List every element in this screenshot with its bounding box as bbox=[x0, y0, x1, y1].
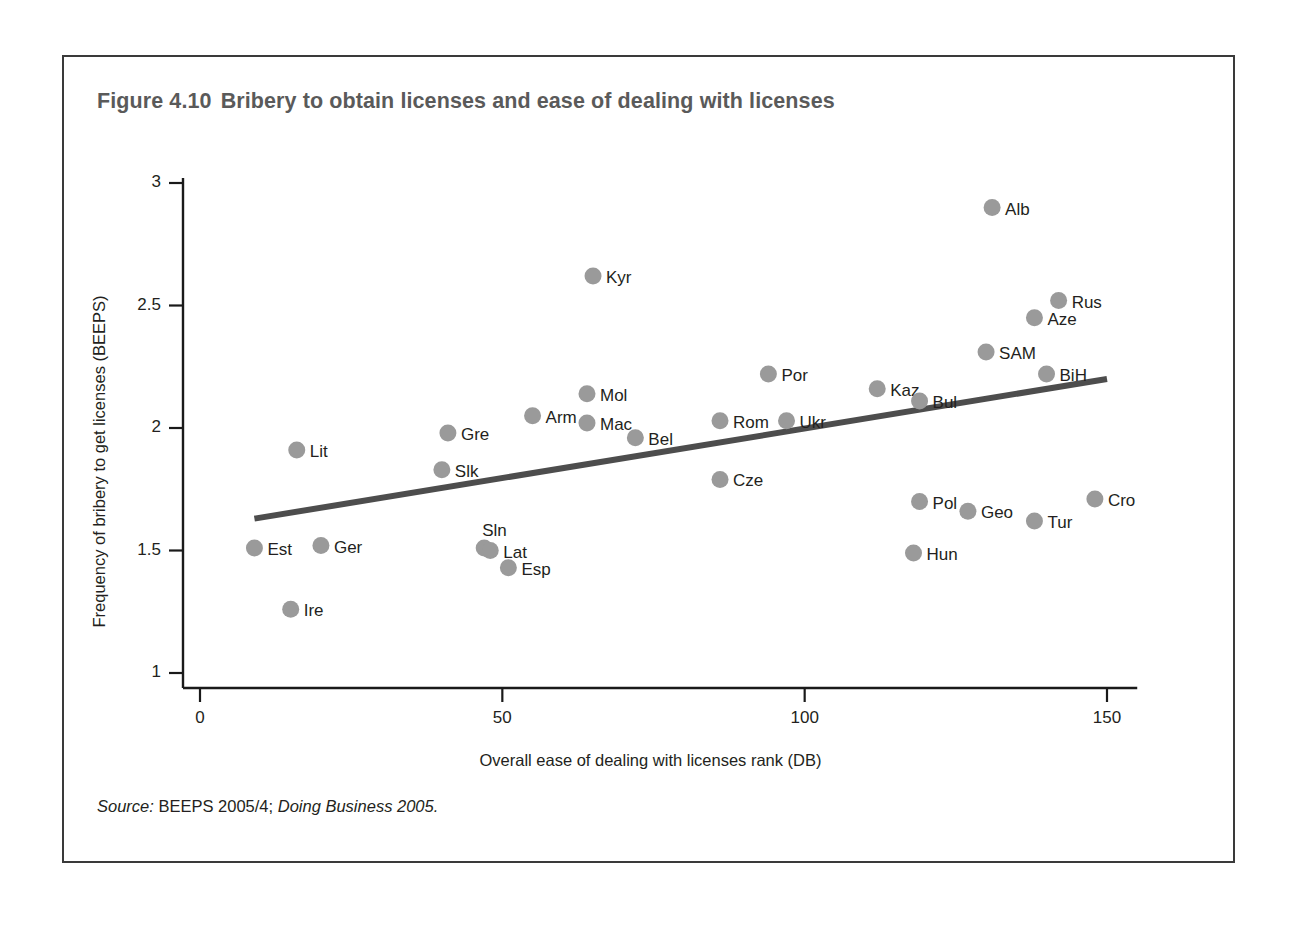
data-point[interactable] bbox=[1026, 513, 1043, 530]
data-point-label: Esp bbox=[521, 560, 550, 579]
data-point[interactable] bbox=[1086, 491, 1103, 508]
source-note: Source: BEEPS 2005/4; Doing Business 200… bbox=[97, 797, 438, 816]
data-point-label: Lat bbox=[503, 543, 527, 562]
x-axis-title: Overall ease of dealing with licenses ra… bbox=[64, 751, 1237, 770]
data-point-label: SAM bbox=[999, 344, 1036, 363]
source-italic: Doing Business 2005. bbox=[278, 797, 439, 815]
data-point-label: Cro bbox=[1108, 491, 1135, 510]
data-point[interactable] bbox=[524, 407, 541, 424]
y-tick-label: 2.5 bbox=[101, 295, 161, 315]
y-axis-title: Frequency of bribery to get licenses (BE… bbox=[90, 222, 109, 702]
data-point-label: Arm bbox=[546, 408, 577, 427]
data-point-label: Mac bbox=[600, 415, 633, 434]
data-point[interactable] bbox=[760, 366, 777, 383]
data-point-label: Est bbox=[267, 540, 292, 559]
data-point-label: Lit bbox=[310, 442, 328, 461]
data-point-label: Pol bbox=[933, 494, 958, 513]
data-point[interactable] bbox=[627, 429, 644, 446]
data-point[interactable] bbox=[1050, 292, 1067, 309]
data-point-label: Cze bbox=[733, 471, 763, 490]
data-point-label: Por bbox=[781, 366, 808, 385]
data-point[interactable] bbox=[288, 442, 305, 459]
data-point[interactable] bbox=[282, 601, 299, 618]
data-point[interactable] bbox=[712, 471, 729, 488]
x-tick-label: 150 bbox=[1077, 708, 1137, 728]
source-label: Source: bbox=[97, 797, 154, 815]
y-tick-label: 1 bbox=[101, 662, 161, 682]
data-point[interactable] bbox=[905, 544, 922, 561]
data-point-label: Rus bbox=[1072, 293, 1102, 312]
x-tick-label: 0 bbox=[170, 708, 230, 728]
data-point[interactable] bbox=[1026, 309, 1043, 326]
data-point[interactable] bbox=[978, 344, 995, 361]
data-point-label: Alb bbox=[1005, 200, 1030, 219]
data-point-label: Tur bbox=[1047, 513, 1072, 532]
data-point[interactable] bbox=[1038, 366, 1055, 383]
data-point[interactable] bbox=[312, 537, 329, 554]
data-point-label: Geo bbox=[981, 503, 1013, 522]
data-point[interactable] bbox=[578, 415, 595, 432]
data-point[interactable] bbox=[869, 380, 886, 397]
data-point-label: Mol bbox=[600, 386, 627, 405]
data-point[interactable] bbox=[778, 412, 795, 429]
data-point[interactable] bbox=[439, 424, 456, 441]
data-point-label: Ire bbox=[304, 601, 324, 620]
y-tick-label: 3 bbox=[101, 172, 161, 192]
data-point[interactable] bbox=[712, 412, 729, 429]
trend-line bbox=[254, 379, 1107, 519]
data-point[interactable] bbox=[500, 559, 517, 576]
data-point-label: Bul bbox=[933, 393, 958, 412]
y-tick-label: 1.5 bbox=[101, 540, 161, 560]
data-point-label: Aze bbox=[1047, 310, 1076, 329]
data-point-label: Gre bbox=[461, 425, 489, 444]
scatter-plot: EstIreLitGerGreSlkSlnLatEspArmMolKyrMacB… bbox=[64, 57, 1237, 865]
data-point[interactable] bbox=[959, 503, 976, 520]
data-point-label: Hun bbox=[927, 545, 958, 564]
source-text: BEEPS 2005/4; bbox=[158, 797, 273, 815]
data-point[interactable] bbox=[911, 493, 928, 510]
data-point[interactable] bbox=[911, 393, 928, 410]
data-point[interactable] bbox=[585, 268, 602, 285]
y-tick-label: 2 bbox=[101, 417, 161, 437]
chart-canvas: EstIreLitGerGreSlkSlnLatEspArmMolKyrMacB… bbox=[64, 57, 1237, 865]
data-point-label: Slk bbox=[455, 462, 479, 481]
x-tick-label: 100 bbox=[775, 708, 835, 728]
data-point-label: Rom bbox=[733, 413, 769, 432]
data-point[interactable] bbox=[246, 540, 263, 557]
data-point-label: Sln bbox=[482, 521, 507, 540]
data-point[interactable] bbox=[984, 199, 1001, 216]
data-point-group: EstIreLitGerGreSlkSlnLatEspArmMolKyrMacB… bbox=[246, 199, 1135, 620]
data-point-label: Ukr bbox=[800, 413, 827, 432]
x-tick-label: 50 bbox=[472, 708, 532, 728]
figure-panel: Figure 4.10Bribery to obtain licenses an… bbox=[62, 55, 1235, 863]
data-point[interactable] bbox=[578, 385, 595, 402]
data-point-label: Kyr bbox=[606, 268, 632, 287]
data-point-label: BiH bbox=[1060, 366, 1087, 385]
data-point-label: Bel bbox=[648, 430, 673, 449]
data-point[interactable] bbox=[482, 542, 499, 559]
data-point-label: Ger bbox=[334, 538, 363, 557]
data-point[interactable] bbox=[433, 461, 450, 478]
